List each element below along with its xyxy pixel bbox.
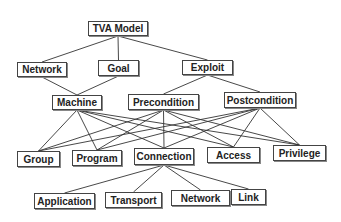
- edge-precondition-connection: [164, 110, 165, 148]
- edge-tva-exploit: [118, 36, 208, 60]
- edge-tva-goal: [118, 36, 119, 60]
- edge-connection-network2: [164, 165, 201, 190]
- node-connection: Connection: [134, 148, 194, 165]
- node-tva: TVA Model: [88, 21, 148, 36]
- edge-layer: [0, 0, 341, 222]
- edge-connection-link: [164, 165, 249, 189]
- edge-exploit-postcondition: [208, 75, 261, 92]
- edge-connection-application: [65, 165, 165, 193]
- node-goal: Goal: [98, 60, 139, 76]
- edge-machine-program: [77, 110, 97, 150]
- node-program: Program: [72, 150, 122, 166]
- node-privilege: Privilege: [273, 145, 326, 161]
- edge-network-machine: [42, 77, 77, 95]
- node-application: Application: [34, 193, 95, 209]
- edge-exploit-precondition: [164, 75, 208, 94]
- node-transport: Transport: [105, 192, 162, 208]
- node-exploit: Exploit: [182, 60, 233, 75]
- node-precondition: Precondition: [128, 94, 199, 110]
- node-access: Access: [207, 147, 260, 163]
- edge-goal-machine: [77, 76, 119, 95]
- edge-precondition-program: [97, 110, 164, 150]
- node-network2: Network: [171, 190, 230, 206]
- node-link: Link: [231, 189, 266, 205]
- node-postcondition: Postcondition: [224, 92, 296, 108]
- node-group: Group: [17, 151, 60, 167]
- edge-tva-network: [42, 36, 118, 62]
- node-network: Network: [17, 62, 67, 77]
- tva-model-diagram: TVA ModelNetworkGoalExploitMachinePrecon…: [0, 0, 341, 222]
- node-machine: Machine: [52, 95, 102, 110]
